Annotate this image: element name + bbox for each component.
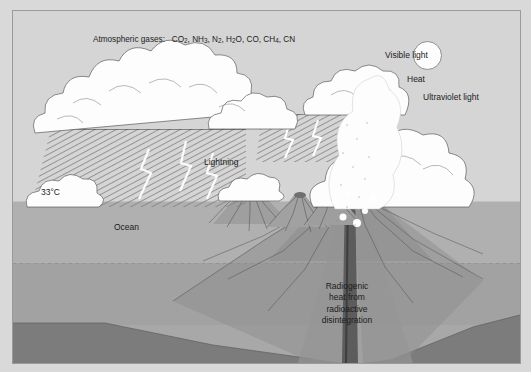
temperature-label: 33°C	[41, 187, 60, 198]
gases-prefix: Atmospheric gases:	[93, 35, 165, 44]
radiogenic-line-4: disintegration	[316, 315, 378, 326]
radiogenic-line-2: heat from	[316, 292, 378, 303]
visible-light-label: Visible light	[385, 50, 428, 61]
figure-page: Atmospheric gases: CO2, NH3, N2, H2O, CO…	[0, 0, 531, 372]
figure-frame: Atmospheric gases: CO2, NH3, N2, H2O, CO…	[12, 10, 521, 364]
ocean-layer	[13, 201, 520, 263]
ultraviolet-light-label: Ultraviolet light	[423, 92, 479, 103]
radiogenic-heat-label: Radiogenic heat from radioactive disinte…	[316, 281, 378, 327]
ocean-label: Ocean	[114, 222, 139, 233]
rainfall-band-right	[256, 114, 354, 162]
rainfall-band-left	[31, 129, 246, 207]
radiogenic-line-3: radioactive	[316, 304, 378, 315]
radiogenic-line-1: Radiogenic	[316, 281, 378, 292]
heat-label: Heat	[407, 74, 425, 85]
atmospheric-gases-label: Atmospheric gases: CO2, NH3, N2, H2O, CO…	[93, 35, 295, 45]
lightning-label: Lightning	[204, 157, 239, 168]
seafloor-boundary-line	[13, 263, 520, 264]
dark-mantle-band	[13, 301, 520, 363]
